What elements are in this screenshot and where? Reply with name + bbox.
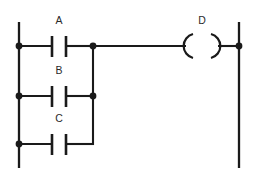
ladder-logic-diagram: A B C D: [0, 0, 255, 194]
branch-node-b: [90, 93, 97, 100]
left-rail-node-c: [16, 141, 23, 148]
branch-node-a: [90, 43, 97, 50]
output-coil-d[interactable]: D: [184, 14, 221, 58]
rung-contact-c[interactable]: C: [19, 112, 94, 155]
rung-contact-b[interactable]: B: [19, 64, 93, 107]
contact-b-label: B: [55, 64, 62, 76]
contact-a-label: A: [55, 14, 62, 26]
coil-d-label: D: [198, 14, 206, 26]
left-rail-node-a: [16, 43, 23, 50]
rung-contact-a[interactable]: A: [19, 14, 93, 57]
ladder-diagram-canvas: A B C D: [0, 0, 255, 194]
contact-c-label: C: [55, 112, 63, 124]
left-rail-node-b: [16, 93, 23, 100]
right-rail-node-d: [236, 43, 243, 50]
